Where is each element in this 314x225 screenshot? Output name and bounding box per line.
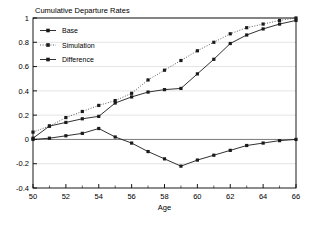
x-tick-label-58: 58 xyxy=(160,192,168,201)
x-tick-label-54: 54 xyxy=(95,192,103,201)
y-tick-label-1: 1 xyxy=(25,14,29,23)
data-point-simulation-58 xyxy=(163,69,166,72)
legend-swatch-simulation-marker xyxy=(46,43,50,47)
legend-swatch-difference-marker xyxy=(46,58,50,62)
data-point-difference-56 xyxy=(130,141,133,144)
data-point-difference-64 xyxy=(262,141,265,144)
data-point-simulation-66 xyxy=(294,16,297,19)
data-point-base-63 xyxy=(245,33,248,36)
x-axis-title: Age xyxy=(158,203,171,212)
data-point-simulation-52 xyxy=(64,116,67,119)
legend-label-base: Base xyxy=(62,27,78,34)
data-point-difference-59 xyxy=(179,165,182,168)
data-point-simulation-55 xyxy=(114,99,117,102)
data-point-difference-63 xyxy=(245,144,248,147)
data-point-difference-57 xyxy=(146,150,149,153)
data-point-simulation-61 xyxy=(212,41,215,44)
data-point-base-60 xyxy=(196,72,199,75)
data-point-simulation-50 xyxy=(31,131,34,134)
data-point-simulation-63 xyxy=(245,26,248,29)
data-point-difference-61 xyxy=(212,154,215,157)
data-point-difference-50 xyxy=(31,138,34,141)
data-point-base-58 xyxy=(163,88,166,91)
x-tick-label-64: 64 xyxy=(259,192,267,201)
data-point-difference-58 xyxy=(163,157,166,160)
x-tick-label-60: 60 xyxy=(193,192,201,201)
data-point-simulation-59 xyxy=(179,59,182,62)
x-tick-label-50: 50 xyxy=(29,192,37,201)
data-point-difference-52 xyxy=(64,134,67,137)
data-point-base-53 xyxy=(81,117,84,120)
data-point-simulation-64 xyxy=(262,22,265,25)
chart-title: Cumulative Departure Rates xyxy=(35,6,130,15)
data-point-simulation-54 xyxy=(97,104,100,107)
y-tick-label-minus0.4: -0.4 xyxy=(16,184,29,193)
data-point-base-61 xyxy=(212,58,215,61)
data-point-base-65 xyxy=(278,22,281,25)
data-point-simulation-60 xyxy=(196,49,199,52)
data-point-base-62 xyxy=(229,42,232,45)
data-point-base-59 xyxy=(179,87,182,90)
data-point-difference-66 xyxy=(294,138,297,141)
x-tick-label-52: 52 xyxy=(62,192,70,201)
data-point-base-57 xyxy=(146,90,149,93)
data-point-simulation-56 xyxy=(130,92,133,95)
data-point-difference-53 xyxy=(81,132,84,135)
data-point-base-54 xyxy=(97,115,100,118)
data-point-difference-51 xyxy=(48,137,51,140)
data-point-difference-55 xyxy=(114,135,117,138)
data-point-base-64 xyxy=(262,27,265,30)
legend-label-difference: Difference xyxy=(62,56,94,63)
y-tick-label-0.2: 0.2 xyxy=(19,111,29,120)
data-point-difference-60 xyxy=(196,158,199,161)
cumulative-departure-rates-chart: 1 0.8 0.6 0.4 0.2 0 -0.2 -0.4 50 52 54 5… xyxy=(0,0,314,225)
x-tick-label-66: 66 xyxy=(292,192,300,201)
data-point-difference-54 xyxy=(97,127,100,130)
data-point-simulation-53 xyxy=(81,110,84,113)
data-point-difference-62 xyxy=(229,149,232,152)
data-point-simulation-65 xyxy=(278,19,281,22)
data-point-difference-65 xyxy=(278,139,281,142)
x-tick-label-56: 56 xyxy=(127,192,135,201)
data-point-simulation-51 xyxy=(48,124,51,127)
y-tick-label-minus0.2: -0.2 xyxy=(16,159,29,168)
data-point-simulation-57 xyxy=(146,78,149,81)
y-tick-label-0.6: 0.6 xyxy=(19,62,29,71)
legend-swatch-base-marker xyxy=(46,29,50,33)
data-point-base-56 xyxy=(130,95,133,98)
legend-label-simulation: Simulation xyxy=(62,42,95,49)
data-point-base-52 xyxy=(64,121,67,124)
y-tick-label-0: 0 xyxy=(25,135,29,144)
data-point-simulation-62 xyxy=(229,32,232,35)
chart-figure: 1 0.8 0.6 0.4 0.2 0 -0.2 -0.4 50 52 54 5… xyxy=(0,0,314,225)
y-tick-label-0.4: 0.4 xyxy=(19,87,29,96)
y-tick-label-0.8: 0.8 xyxy=(19,38,29,47)
x-tick-label-62: 62 xyxy=(226,192,234,201)
